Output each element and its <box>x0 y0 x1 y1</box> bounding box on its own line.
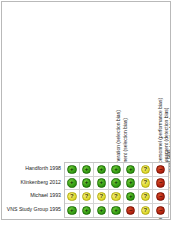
risk-of-bias-grid: +++++?–+++++?–????+?–++++–?– <box>64 162 169 218</box>
judgement-cell[interactable]: ? <box>139 204 154 218</box>
judgement-symbol: + <box>99 179 103 185</box>
judgement-cell[interactable]: – <box>153 177 168 191</box>
column-header-blinding-participants-personnel: Blinding of participants and personnel (… <box>94 4 109 162</box>
judgement-high-icon: – <box>156 178 166 188</box>
column-headers: Random sequence generation (selection bi… <box>64 4 169 162</box>
judgement-symbol: + <box>85 166 89 172</box>
judgement-low-icon: + <box>111 206 121 216</box>
grid-row: +++++?– <box>65 177 168 191</box>
judgement-symbol: ? <box>144 179 148 185</box>
judgement-cell[interactable]: + <box>94 163 109 177</box>
judgement-symbol: + <box>85 207 89 213</box>
judgement-symbol: + <box>129 166 133 172</box>
column-header-allocation-concealment: Allocation concealment (selection bias) <box>79 4 94 162</box>
judgement-symbol: – <box>129 207 132 213</box>
grid-row: ????+?– <box>65 190 168 204</box>
judgement-symbol: ? <box>114 193 118 199</box>
judgement-cell[interactable]: – <box>153 204 168 218</box>
judgement-unclear-icon: ? <box>97 192 107 202</box>
judgement-cell[interactable]: + <box>94 177 109 191</box>
judgement-symbol: + <box>99 166 103 172</box>
judgement-cell[interactable]: + <box>109 177 124 191</box>
judgement-symbol: ? <box>99 193 103 199</box>
grid-row: ++++–?– <box>65 204 168 218</box>
judgement-symbol: ? <box>70 193 74 199</box>
judgement-cell[interactable]: + <box>80 204 95 218</box>
judgement-symbol: – <box>159 193 162 199</box>
judgement-cell[interactable]: + <box>65 163 80 177</box>
judgement-symbol: – <box>159 166 162 172</box>
study-labels: Handforth 1998 Klinkenberg 2012 Michael … <box>4 162 64 218</box>
judgement-unclear-icon: ? <box>141 192 151 202</box>
judgement-symbol: ? <box>144 207 148 213</box>
judgement-cell[interactable]: ? <box>109 190 124 204</box>
judgement-low-icon: + <box>82 178 92 188</box>
judgement-cell[interactable]: + <box>80 177 95 191</box>
judgement-cell[interactable]: ? <box>80 190 95 204</box>
judgement-unclear-icon: ? <box>67 192 77 202</box>
judgement-cell[interactable]: ? <box>139 190 154 204</box>
judgement-low-icon: + <box>82 206 92 216</box>
judgement-unclear-icon: ? <box>141 206 151 216</box>
judgement-cell[interactable]: + <box>124 163 139 177</box>
judgement-symbol: + <box>70 179 74 185</box>
judgement-unclear-icon: ? <box>82 192 92 202</box>
judgement-symbol: + <box>114 166 118 172</box>
judgement-cell[interactable]: + <box>109 163 124 177</box>
judgement-symbol: + <box>70 207 74 213</box>
judgement-cell[interactable]: ? <box>139 177 154 191</box>
judgement-cell[interactable]: + <box>94 204 109 218</box>
study-label: Michael 1993 <box>4 189 64 203</box>
judgement-low-icon: + <box>111 165 121 175</box>
judgement-symbol: ? <box>144 166 148 172</box>
judgement-symbol: + <box>129 193 133 199</box>
judgement-high-icon: – <box>126 206 136 216</box>
judgement-cell[interactable]: + <box>124 190 139 204</box>
judgement-cell[interactable]: + <box>65 177 80 191</box>
judgement-symbol: – <box>159 207 162 213</box>
judgement-cell[interactable]: ? <box>139 163 154 177</box>
grid-row: +++++?– <box>65 163 168 177</box>
judgement-low-icon: + <box>97 165 107 175</box>
judgement-low-icon: + <box>97 178 107 188</box>
judgement-cell[interactable]: ? <box>65 190 80 204</box>
column-header-random-sequence-generation: Random sequence generation (selection bi… <box>64 4 79 162</box>
judgement-symbol: ? <box>144 193 148 199</box>
judgement-low-icon: + <box>67 206 77 216</box>
judgement-symbol: + <box>70 166 74 172</box>
judgement-cell[interactable]: + <box>65 204 80 218</box>
judgement-cell[interactable]: – <box>153 190 168 204</box>
judgement-unclear-icon: ? <box>111 192 121 202</box>
judgement-high-icon: – <box>156 192 166 202</box>
judgement-high-icon: – <box>156 165 166 175</box>
judgement-cell[interactable]: – <box>153 163 168 177</box>
column-header-blinding-outcome-assessment: Blinding of outcome assessment (detectio… <box>109 4 124 162</box>
risk-of-bias-summary-figure: Random sequence generation (selection bi… <box>1 1 171 220</box>
judgement-symbol: + <box>114 207 118 213</box>
judgement-symbol: + <box>85 179 89 185</box>
judgement-symbol: + <box>129 179 133 185</box>
judgement-low-icon: + <box>97 206 107 216</box>
judgement-low-icon: + <box>126 192 136 202</box>
judgement-cell[interactable]: ? <box>94 190 109 204</box>
column-header-selective-reporting: Selective reporting (reporting bias) <box>139 4 154 162</box>
judgement-low-icon: + <box>126 165 136 175</box>
judgement-unclear-icon: ? <box>141 165 151 175</box>
judgement-cell[interactable]: + <box>109 204 124 218</box>
judgement-low-icon: + <box>111 178 121 188</box>
column-header-incomplete-outcome-data: Incomplete outcome data (attrition bias) <box>124 4 139 162</box>
judgement-symbol: – <box>159 179 162 185</box>
judgement-symbol: + <box>99 207 103 213</box>
judgement-cell[interactable]: – <box>124 204 139 218</box>
judgement-cell[interactable]: + <box>124 177 139 191</box>
column-header-other-bias: Other bias <box>154 4 169 162</box>
judgement-high-icon: – <box>156 206 166 216</box>
study-label: VNS Study Group 1995 <box>4 203 64 217</box>
judgement-low-icon: + <box>82 165 92 175</box>
study-label: Handforth 1998 <box>4 162 64 176</box>
judgement-cell[interactable]: + <box>80 163 95 177</box>
judgement-symbol: + <box>114 179 118 185</box>
judgement-unclear-icon: ? <box>141 178 151 188</box>
judgement-low-icon: + <box>126 178 136 188</box>
judgement-symbol: ? <box>85 193 89 199</box>
